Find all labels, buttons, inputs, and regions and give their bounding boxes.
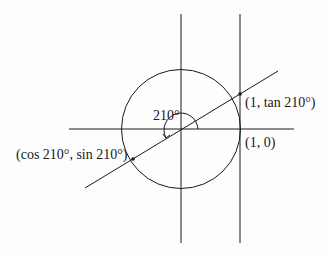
tan-point xyxy=(238,92,242,96)
angle-label: 210° xyxy=(153,109,180,123)
unit-circle-diagram: 210° (1, tan 210°) (1, 0) (cos 210°, sin… xyxy=(0,0,327,258)
cos-sin-point xyxy=(131,157,135,161)
tan-point-label: (1, tan 210°) xyxy=(245,96,316,110)
unit-point-label: (1, 0) xyxy=(245,136,275,150)
cos-sin-point-label: (cos 210°, sin 210°) xyxy=(16,148,128,162)
diagram-graphics xyxy=(0,0,327,258)
